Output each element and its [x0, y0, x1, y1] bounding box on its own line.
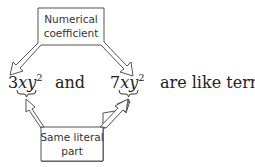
bottom-callout-layer: Same literal part — [0, 0, 255, 167]
bottom-right-arrow — [100, 99, 128, 128]
bottom-left-arrow — [26, 99, 44, 128]
bottom-callout-line1: Same literal — [40, 131, 103, 143]
bottom-callout-line2: part — [61, 145, 83, 157]
